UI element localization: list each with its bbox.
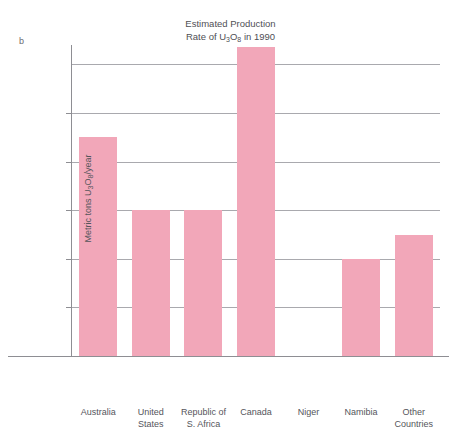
bar — [395, 235, 433, 357]
plot-area: 200040006000800010,000 AustraliaUnitedSt… — [72, 45, 440, 356]
x-axis-line — [8, 356, 449, 357]
x-axis-tick-label: Namibia — [335, 407, 388, 419]
y-axis-title-mid: O — [83, 179, 93, 186]
x-axis-tick-label-line: Republic of — [177, 407, 230, 419]
x-axis-tick-label: OtherCountries — [387, 407, 440, 430]
x-axis-tick-label-line: Other — [387, 407, 440, 419]
chart-title-formula-post: in 1990 — [241, 31, 275, 42]
x-axis-tick-label: Canada — [230, 407, 283, 419]
y-axis-title-post: /year — [83, 155, 93, 175]
x-axis-tick-label: Niger — [282, 407, 335, 419]
chart-title: Estimated Production Rate of U3O8 in 199… — [0, 18, 461, 46]
x-axis-tick-label: Republic ofS. Africa — [177, 407, 230, 430]
y-axis-tick-mark — [66, 162, 72, 163]
x-axis-tick-label: UnitedStates — [125, 407, 178, 430]
x-axis-tick-label-line: Countries — [387, 419, 440, 430]
y-axis-title: Metric tons U3O8/year — [83, 59, 94, 339]
bar — [132, 210, 170, 356]
chart-title-formula-pre: Rate of U — [186, 31, 226, 42]
chart-title-line-1: Estimated Production — [0, 18, 461, 31]
bar — [342, 259, 380, 356]
y-axis-title-sub-8: 8 — [87, 175, 94, 179]
y-axis-tick-mark — [66, 210, 72, 211]
x-axis-tick-label-line: United — [125, 407, 178, 419]
x-axis-tick-label-line: Namibia — [335, 407, 388, 419]
y-axis-tick-mark — [66, 307, 72, 308]
y-axis-title-pre: Metric tons U — [83, 189, 93, 242]
bar — [184, 210, 222, 356]
chart-title-line-2: Rate of U3O8 in 1990 — [0, 31, 461, 47]
y-axis-tick-mark — [66, 259, 72, 260]
y-axis-tick-mark — [66, 113, 72, 114]
x-axis-tick-label-line: Canada — [230, 407, 283, 419]
x-axis-tick-label-line: Niger — [282, 407, 335, 419]
x-axis-tick-label: Australia — [72, 407, 125, 419]
x-axis-tick-label-line: S. Africa — [177, 419, 230, 430]
x-axis-tick-label-line: Australia — [72, 407, 125, 419]
y-axis-title-sub-3: 3 — [87, 186, 94, 190]
bar — [237, 47, 275, 356]
x-axis-tick-label-line: States — [125, 419, 178, 430]
